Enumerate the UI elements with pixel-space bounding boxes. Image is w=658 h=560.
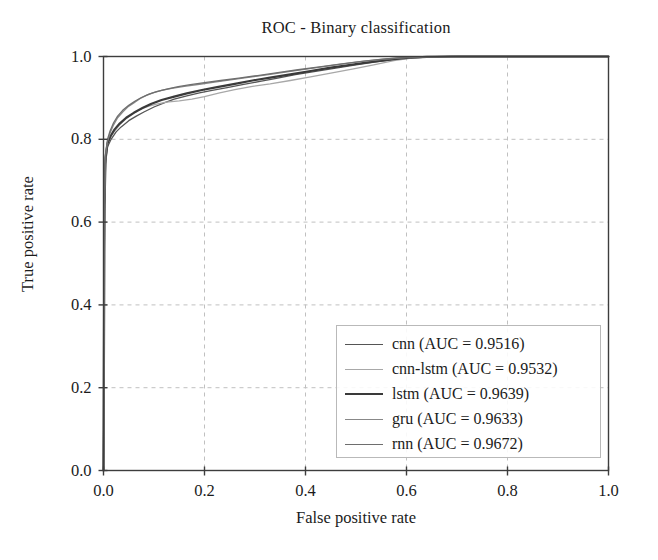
- y-axis-label: True positive rate: [18, 134, 38, 334]
- x-tick-label: 0.8: [478, 481, 538, 501]
- x-tick-label: 0.2: [175, 481, 235, 501]
- legend-swatch-gru: [345, 419, 383, 420]
- x-tick-label: 1.0: [579, 481, 639, 501]
- x-tick-label: 0.6: [377, 481, 437, 501]
- legend-swatch-lstm: [345, 393, 383, 395]
- legend-item-lstm[interactable]: lstm (AUC = 0.9639): [345, 381, 529, 407]
- y-tick-label: 0.2: [46, 378, 92, 398]
- legend-swatch-cnn: [345, 344, 383, 345]
- legend-label-gru: gru (AUC = 0.9633): [392, 411, 523, 427]
- chart-legend: cnn (AUC = 0.9516)cnn-lstm (AUC = 0.9532…: [336, 325, 601, 458]
- legend-label-cnn: cnn (AUC = 0.9516): [392, 336, 525, 352]
- legend-swatch-rnn: [345, 444, 383, 445]
- legend-label-cnn-lstm: cnn-lstm (AUC = 0.9532): [392, 361, 557, 377]
- y-tick-label: 0.4: [46, 295, 92, 315]
- y-tick-label: 0.6: [46, 212, 92, 232]
- legend-swatch-cnn-lstm: [345, 369, 383, 370]
- legend-item-gru[interactable]: gru (AUC = 0.9633): [345, 406, 523, 432]
- legend-item-rnn[interactable]: rnn (AUC = 0.9672): [345, 431, 523, 457]
- legend-label-lstm: lstm (AUC = 0.9639): [392, 386, 529, 402]
- y-tick-label: 0.8: [46, 129, 92, 149]
- legend-item-cnn-lstm[interactable]: cnn-lstm (AUC = 0.9532): [345, 356, 557, 382]
- x-tick-label: 0.4: [276, 481, 336, 501]
- y-tick-label: 1.0: [46, 47, 92, 67]
- legend-item-cnn[interactable]: cnn (AUC = 0.9516): [345, 331, 525, 357]
- y-tick-label: 0.0: [46, 461, 92, 481]
- plot-canvas: [0, 0, 658, 560]
- legend-label-rnn: rnn (AUC = 0.9672): [392, 436, 523, 452]
- x-tick-label: 0.0: [74, 481, 134, 501]
- x-axis-label: False positive rate: [103, 508, 609, 528]
- roc-chart-figure: ROC - Binary classification 0.00.20.40.6…: [0, 0, 658, 560]
